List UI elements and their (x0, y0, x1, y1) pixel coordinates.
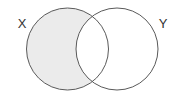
set-x-label: X (18, 16, 27, 31)
set-y-label: Y (159, 16, 168, 31)
venn-svg: X Y (0, 0, 182, 96)
venn-diagram: X Y (0, 0, 182, 96)
